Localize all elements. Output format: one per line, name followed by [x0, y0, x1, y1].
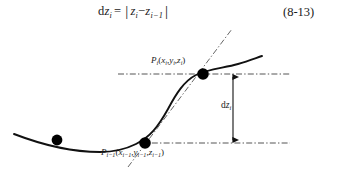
equation-lhs-subscript: i	[110, 11, 113, 20]
equation-term1-z: z	[130, 4, 135, 18]
equation-expression: dzi=|zi−zi−1|	[98, 3, 170, 19]
label-dz-sub: i	[229, 104, 231, 111]
figure-svg	[0, 24, 341, 169]
label-point-i-x-sub: i	[165, 60, 167, 66]
figure-page: dzi=|zi−zi−1| (8-13)	[0, 0, 341, 169]
label-point-i-close: )	[182, 55, 185, 65]
label-dz: dzi	[221, 100, 231, 111]
label-point-i: Pi(xi,yi,zi)	[151, 55, 185, 66]
label-point-i-minus-1: Pi−1(xi−1,yi−1,zi−1)	[101, 147, 164, 158]
figure-diagram: Pi(xi,yi,zi) Pi−1(xi−1,yi−1,zi−1) dzi	[0, 24, 341, 169]
equation-term2-subscript: i−1	[150, 11, 163, 20]
equation-abs-close: |	[163, 3, 170, 19]
label-pim1-x-sub: i−1	[122, 152, 131, 158]
label-point-i-p-sub: i	[157, 60, 159, 66]
equation-term1-subscript: i	[136, 11, 139, 20]
label-pim1-y: y	[134, 147, 138, 157]
label-pim1-z-sub: i−1	[152, 152, 161, 158]
label-point-i-p: P	[151, 55, 157, 65]
label-pim1-y-sub: i−1	[138, 152, 147, 158]
equation-row: dzi=|zi−zi−1| (8-13)	[0, 2, 341, 24]
equation-equals: =	[112, 4, 123, 18]
label-pim1-p-sub: i−1	[107, 152, 116, 158]
equation-number: (8-13)	[283, 4, 314, 20]
label-point-i-y-sub: i	[173, 60, 175, 66]
marker-dot-left	[52, 135, 63, 146]
equation-lhs-z: z	[104, 4, 109, 18]
label-pim1-close: )	[161, 147, 164, 157]
label-pim1-p: P	[101, 147, 107, 157]
marker-dot-point-i	[197, 68, 209, 80]
